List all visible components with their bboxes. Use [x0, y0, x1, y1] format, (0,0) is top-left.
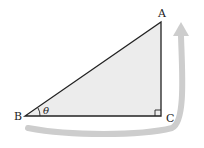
triangle-diagram: A B C θ: [0, 0, 204, 148]
angle-label-theta: θ: [43, 105, 49, 116]
vertex-label-c: C: [166, 112, 174, 125]
vertex-label-a: A: [157, 7, 167, 20]
triangle-abc: [25, 22, 161, 116]
vertex-label-b: B: [14, 110, 22, 123]
arrow-head-icon: [173, 22, 189, 36]
